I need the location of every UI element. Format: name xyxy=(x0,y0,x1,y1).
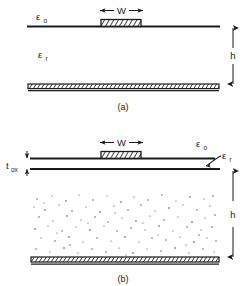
epsilon-subscript-o-b: o xyxy=(204,144,208,151)
width-label-b: W xyxy=(117,137,126,148)
height-dimension-b: h xyxy=(230,171,235,257)
width-dimension-b: W xyxy=(100,136,143,149)
strip-conductor-a xyxy=(101,20,141,27)
epsilon-symbol-r-b: ε xyxy=(222,150,227,161)
width-dimension-a: W xyxy=(100,4,143,17)
oxide-thickness-dimension-b: t ox xyxy=(6,151,29,176)
epsilon-subscript-r-a: r xyxy=(46,55,49,62)
height-label-b: h xyxy=(230,209,235,220)
permittivity-free-space-label-a: ε o xyxy=(36,11,48,24)
figure-part-b: W ε o ε r t ox xyxy=(0,125,247,286)
height-label-a: h xyxy=(230,50,235,61)
ground-plane-a xyxy=(28,84,219,91)
epsilon-subscript-o-a: o xyxy=(44,17,48,24)
figure-part-a: W ε o ε r h (a) xyxy=(0,0,247,125)
ground-plane-b xyxy=(31,257,219,264)
epsilon-symbol-a: ε xyxy=(36,11,41,22)
permittivity-free-space-label-b: ε o xyxy=(196,138,208,151)
epsilon-symbol-r-a: ε xyxy=(38,49,43,60)
permittivity-substrate-label-a: ε r xyxy=(38,49,49,62)
oxide-thickness-subscript-b: ox xyxy=(11,166,19,173)
width-label-a: W xyxy=(117,5,126,16)
epsilon-symbol-b: ε xyxy=(196,138,201,149)
oxide-thickness-label-b: t xyxy=(6,160,9,171)
height-dimension-a: h xyxy=(230,28,235,84)
caption-b: (b) xyxy=(118,274,129,284)
substrate-stipple-region-b xyxy=(31,193,219,258)
strip-conductor-b xyxy=(101,152,141,159)
epsilon-subscript-r-b: r xyxy=(230,156,233,163)
caption-a: (a) xyxy=(118,102,129,112)
